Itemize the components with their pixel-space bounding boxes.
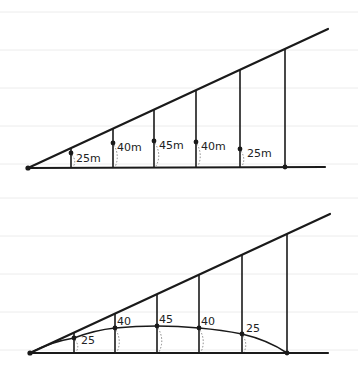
top-point-3 xyxy=(152,139,157,144)
top-point-1 xyxy=(69,151,74,156)
top-label-1: 25m xyxy=(76,152,101,165)
diagram-canvas: 25m 40m 45m 40m 25m 25 40 4 xyxy=(0,0,358,387)
bottom-hypotenuse xyxy=(30,214,330,353)
bottom-measure-arc-2 xyxy=(116,330,119,352)
bottom-point-1 xyxy=(72,336,77,341)
bottom-end-dot xyxy=(285,351,290,356)
top-measure-arc-1 xyxy=(72,155,75,167)
top-label-4: 40m xyxy=(201,140,226,153)
top-measure-arc-4 xyxy=(197,144,200,166)
bottom-label-2: 40 xyxy=(117,315,131,328)
bottom-diagram: 25 40 45 40 25 xyxy=(27,214,330,356)
bottom-label-3: 45 xyxy=(159,313,173,326)
top-label-2: 40m xyxy=(117,141,142,154)
bottom-measure-arc-4 xyxy=(200,330,203,352)
top-point-5 xyxy=(238,147,243,152)
top-label-5: 25m xyxy=(247,147,272,160)
top-origin-dot xyxy=(25,165,30,170)
bottom-label-4: 40 xyxy=(201,315,215,328)
top-end-dot xyxy=(283,165,288,170)
top-point-4 xyxy=(194,140,199,145)
ruled-lines xyxy=(0,12,358,350)
bottom-label-5: 25 xyxy=(246,322,260,335)
bottom-measure-arc-3 xyxy=(158,328,162,352)
bottom-label-1: 25 xyxy=(81,334,95,347)
bottom-point-5 xyxy=(240,332,245,337)
top-baseline xyxy=(28,167,325,168)
top-point-2 xyxy=(111,141,116,146)
top-label-3: 45m xyxy=(159,139,184,152)
